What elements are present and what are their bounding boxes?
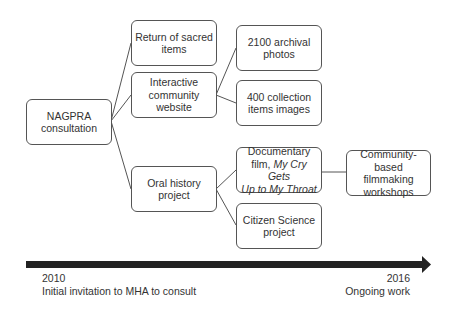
timeline-arrow — [26, 256, 431, 273]
node-text: Oral history — [147, 177, 201, 190]
timeline-start-label: Initial invitation to MHA to consult — [42, 285, 196, 298]
node-nagpra-consultation: NAGPRA consultation — [26, 99, 112, 145]
timeline-end-label: Ongoing work — [345, 285, 410, 298]
node-text: Documentary — [239, 145, 319, 158]
node-text: community — [149, 89, 200, 102]
node-text: consultation — [41, 122, 97, 135]
node-collection-images: 400 collection items images — [236, 80, 322, 126]
timeline-start-year: 2010 — [42, 272, 196, 285]
node-archival-photos: 2100 archival photos — [236, 25, 322, 71]
node-return-sacred-items: Return of sacred items — [131, 20, 217, 66]
node-text: photos — [248, 48, 310, 61]
node-text: Interactive — [149, 76, 200, 89]
node-text: Return of sacred — [135, 31, 213, 44]
node-text: film, — [251, 158, 273, 170]
node-text: items — [135, 43, 213, 56]
node-text: film, My Cry Gets — [239, 158, 319, 183]
node-interactive-website: Interactive community website — [131, 72, 217, 118]
timeline-start: 2010 Initial invitation to MHA to consul… — [42, 272, 196, 298]
node-text: project — [147, 189, 201, 202]
node-filmmaking-workshops: Community- based filmmaking workshops — [346, 150, 431, 196]
node-text: website — [149, 101, 200, 114]
node-text: Citizen Science — [243, 214, 315, 227]
node-text: based filmmaking — [349, 161, 428, 186]
node-text: NAGPRA — [41, 110, 97, 123]
node-text: 2100 archival — [248, 36, 310, 49]
node-text: project — [243, 226, 315, 239]
node-citizen-science: Citizen Science project — [236, 203, 322, 249]
node-documentary-film: Documentary film, My Cry Gets Up to My T… — [236, 147, 322, 193]
node-text: 400 collection — [247, 91, 311, 104]
node-text: Community- — [349, 148, 428, 161]
node-text: items images — [247, 103, 311, 116]
film-title: Up to My Throat — [239, 183, 319, 196]
node-oral-history: Oral history project — [131, 166, 217, 212]
timeline-end: 2016 Ongoing work — [345, 272, 410, 298]
film-title: My Cry Gets — [268, 158, 307, 183]
timeline-end-year: 2016 — [345, 272, 410, 285]
node-text: workshops — [349, 186, 428, 199]
